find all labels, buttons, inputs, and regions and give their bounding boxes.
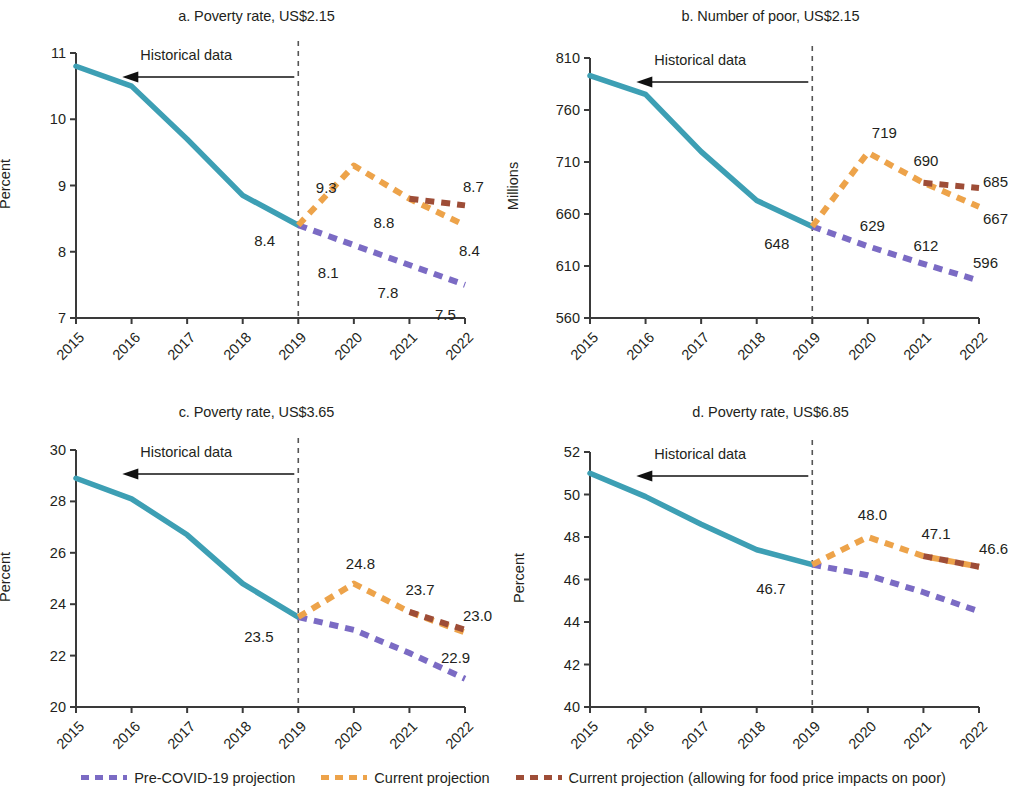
legend-swatch-current_food xyxy=(516,775,562,780)
data-point-label: 8.1 xyxy=(318,264,339,281)
series-historical xyxy=(76,478,298,617)
data-point-label: 8.4 xyxy=(459,242,480,259)
series-pre_covid xyxy=(812,226,979,280)
y-tick-label: 52 xyxy=(540,444,580,460)
historical-arrow-head xyxy=(636,471,652,482)
data-point-label: 47.1 xyxy=(921,525,950,542)
historical-data-label: Historical data xyxy=(140,444,232,460)
series-pre_covid xyxy=(812,565,979,612)
y-tick-label: 10 xyxy=(26,111,66,127)
chart-panel-b: b. Number of poor, US$2.15 5606106607107… xyxy=(514,0,1027,396)
chart-panel-d: d. Poverty rate, US$6.85 404244464850522… xyxy=(514,396,1027,792)
legend-item-current_food[interactable]: Current projection (allowing for food pr… xyxy=(516,770,946,786)
y-tick-label: 9 xyxy=(26,178,66,194)
y-tick-label: 610 xyxy=(534,258,580,274)
data-point-label: 46.6 xyxy=(979,540,1008,557)
data-point-label: 8.8 xyxy=(373,214,394,231)
historical-data-label: Historical data xyxy=(140,47,232,63)
data-point-label: 719 xyxy=(872,124,897,141)
y-tick-label: 30 xyxy=(26,442,66,458)
y-tick-label: 11 xyxy=(26,45,66,61)
data-point-label: 22.9 xyxy=(441,649,470,666)
y-tick-label: 26 xyxy=(26,545,66,561)
data-point-label: 23.5 xyxy=(244,628,273,645)
series-current_food xyxy=(409,199,465,206)
series-current xyxy=(812,153,979,227)
y-tick-label: 810 xyxy=(534,50,580,66)
series-current xyxy=(298,584,465,633)
legend-label: Pre-COVID-19 projection xyxy=(134,770,295,786)
series-historical xyxy=(76,66,298,225)
y-tick-label: 28 xyxy=(26,493,66,509)
data-point-label: 667 xyxy=(983,210,1008,227)
data-point-label: 24.8 xyxy=(346,555,375,572)
series-historical xyxy=(590,76,812,227)
data-point-label: 690 xyxy=(913,152,938,169)
historical-arrow-head xyxy=(122,469,138,480)
legend-swatch-pre_covid xyxy=(81,775,127,780)
series-historical xyxy=(590,473,812,564)
y-tick-label: 20 xyxy=(26,699,66,715)
legend-label: Current projection (allowing for food pr… xyxy=(569,770,946,786)
y-axis-label: Millions xyxy=(505,131,521,241)
data-point-label: 9.3 xyxy=(316,179,337,196)
y-tick-label: 40 xyxy=(540,699,580,715)
y-tick-label: 710 xyxy=(534,154,580,170)
y-tick-label: 46 xyxy=(540,572,580,588)
historical-data-label: Historical data xyxy=(654,446,746,462)
legend-swatch-current xyxy=(321,775,367,780)
chart-panel-a: a. Poverty rate, US$2.15 789101120152016… xyxy=(0,0,513,396)
y-tick-label: 24 xyxy=(26,596,66,612)
y-tick-label: 22 xyxy=(26,648,66,664)
data-point-label: 648 xyxy=(764,235,789,252)
data-point-label: 596 xyxy=(973,254,998,271)
data-point-label: 629 xyxy=(860,217,885,234)
figure-poverty-projections: a. Poverty rate, US$2.15 789101120152016… xyxy=(0,0,1027,792)
y-tick-label: 760 xyxy=(534,102,580,118)
data-point-label: 48.0 xyxy=(858,506,887,523)
data-point-label: 46.7 xyxy=(756,580,785,597)
historical-data-label: Historical data xyxy=(654,52,746,68)
data-point-label: 685 xyxy=(983,173,1008,190)
y-tick-label: 7 xyxy=(26,310,66,326)
y-tick-label: 44 xyxy=(540,614,580,630)
data-point-label: 23.7 xyxy=(405,581,434,598)
y-tick-label: 8 xyxy=(26,244,66,260)
y-tick-label: 42 xyxy=(540,657,580,673)
historical-arrow-head xyxy=(636,77,652,88)
series-current_food xyxy=(409,612,465,630)
data-point-label: 23.0 xyxy=(463,607,492,624)
y-axis-label: Percent xyxy=(0,522,13,632)
data-point-label: 7.8 xyxy=(377,284,398,301)
data-point-label: 7.5 xyxy=(435,306,456,323)
y-tick-label: 560 xyxy=(534,310,580,326)
y-axis-label: Percent xyxy=(0,129,13,239)
data-point-label: 8.4 xyxy=(254,232,275,249)
data-point-label: 612 xyxy=(913,237,938,254)
y-axis-label: Percent xyxy=(511,523,527,633)
chart-panel-c: c. Poverty rate, US$3.65 202224262830201… xyxy=(0,396,513,792)
y-tick-label: 48 xyxy=(540,529,580,545)
series-current xyxy=(812,537,979,567)
y-tick-label: 50 xyxy=(540,487,580,503)
data-point-label: 8.7 xyxy=(463,178,484,195)
y-tick-label: 660 xyxy=(534,206,580,222)
legend-label: Current projection xyxy=(374,770,489,786)
legend-item-pre_covid[interactable]: Pre-COVID-19 projection xyxy=(81,770,295,786)
legend-item-current[interactable]: Current projection xyxy=(321,770,489,786)
chart-legend: Pre-COVID-19 projectionCurrent projectio… xyxy=(0,763,1027,792)
